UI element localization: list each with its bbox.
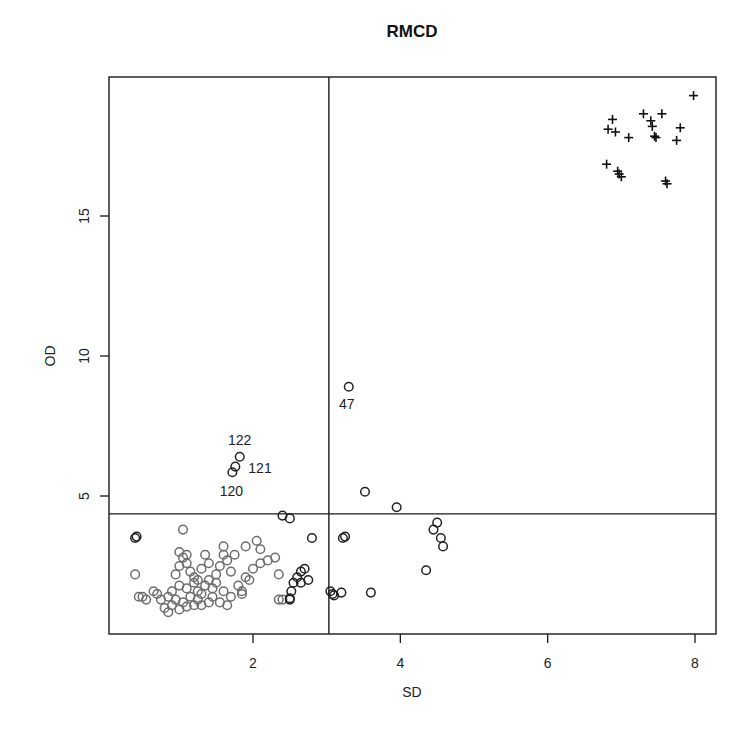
cutoff-lines [109, 77, 716, 634]
y-tick-label: 10 [76, 348, 92, 364]
circle-marker [131, 570, 140, 579]
circle-marker [271, 553, 280, 562]
circle-marker [230, 551, 239, 560]
plus-marker [657, 109, 666, 118]
plus-marker [646, 116, 655, 125]
plus-marker [650, 132, 659, 141]
x-axis: 2468 [249, 634, 699, 671]
plus-marker [689, 91, 698, 100]
circle-marker [171, 570, 180, 579]
circle-marker [197, 565, 206, 574]
circle-marker [179, 525, 188, 534]
circle-marker [437, 534, 446, 543]
plus-marker [651, 133, 660, 142]
point-labels: 47122121120 [220, 396, 355, 499]
circle-marker [286, 514, 295, 523]
circle-marker [219, 542, 228, 551]
x-tick-label: 2 [249, 655, 257, 671]
plus-marker [648, 122, 657, 131]
circle-marker [433, 518, 442, 527]
plus-marker [602, 160, 611, 169]
x-axis-label: SD [402, 684, 421, 700]
y-axis: 51015 [76, 208, 109, 500]
plus-marker [624, 133, 633, 142]
circle-marker [235, 453, 244, 462]
x-tick-label: 4 [396, 655, 404, 671]
circle-marker [256, 545, 265, 554]
circle-marker [204, 559, 213, 568]
y-tick-label: 15 [76, 208, 92, 224]
circle-marker [439, 542, 448, 551]
plus-marker [676, 123, 685, 132]
circle-marker [212, 570, 221, 579]
circle-marker [361, 488, 370, 497]
y-axis-label: OD [42, 346, 58, 367]
circle-marker [367, 588, 376, 597]
scatter-plot: RMCD 2468 51015 SD OD 47122121120 [0, 0, 752, 737]
circle-marker [219, 587, 228, 596]
x-tick-label: 6 [544, 655, 552, 671]
point-label: 121 [248, 460, 272, 476]
circle-marker [252, 537, 261, 546]
plus-marker [639, 109, 648, 118]
plus-marker [672, 136, 681, 145]
circle-marker [216, 562, 225, 571]
circle-marker [241, 542, 250, 551]
x-tick-label: 8 [691, 655, 699, 671]
circle-marker [392, 503, 401, 512]
circle-marker [274, 570, 283, 579]
circle-marker [422, 566, 431, 575]
circle-marker [249, 565, 258, 574]
point-label: 47 [339, 396, 355, 412]
circle-marker [308, 534, 317, 543]
chart-title: RMCD [387, 22, 438, 41]
circle-marker [201, 551, 210, 560]
plot-frame [109, 77, 716, 634]
y-tick-label: 5 [76, 492, 92, 500]
circle-marker [344, 383, 353, 392]
circle-marker [227, 567, 236, 576]
point-label: 122 [228, 432, 252, 448]
data-points [131, 91, 698, 616]
circle-marker [227, 593, 236, 602]
circle-marker [337, 588, 346, 597]
circle-marker [182, 584, 191, 593]
circle-marker [223, 601, 232, 610]
point-label: 120 [220, 483, 244, 499]
plus-marker [608, 115, 617, 124]
